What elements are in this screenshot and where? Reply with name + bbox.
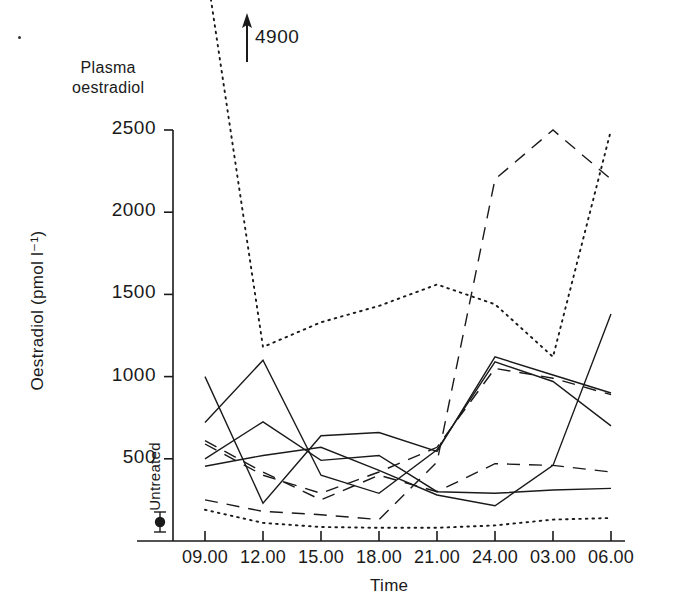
data-series-group <box>205 0 611 528</box>
series-line <box>205 441 611 500</box>
series-line <box>205 357 611 503</box>
y-tick-marks <box>164 130 173 459</box>
series-line <box>205 510 611 528</box>
untreated-marker <box>154 512 166 532</box>
plot-area <box>0 0 697 606</box>
series-line <box>205 314 611 506</box>
series-line <box>205 130 611 520</box>
untreated-point-marker <box>155 517 165 527</box>
axis-lines <box>137 130 625 541</box>
offscale-arrow <box>242 13 252 62</box>
series-line <box>205 368 611 493</box>
series-line <box>205 0 611 357</box>
figure-canvas: Plasmaoestradiol 4900 Oestradiol (pmol l… <box>0 0 697 606</box>
x-tick-marks <box>205 531 611 541</box>
